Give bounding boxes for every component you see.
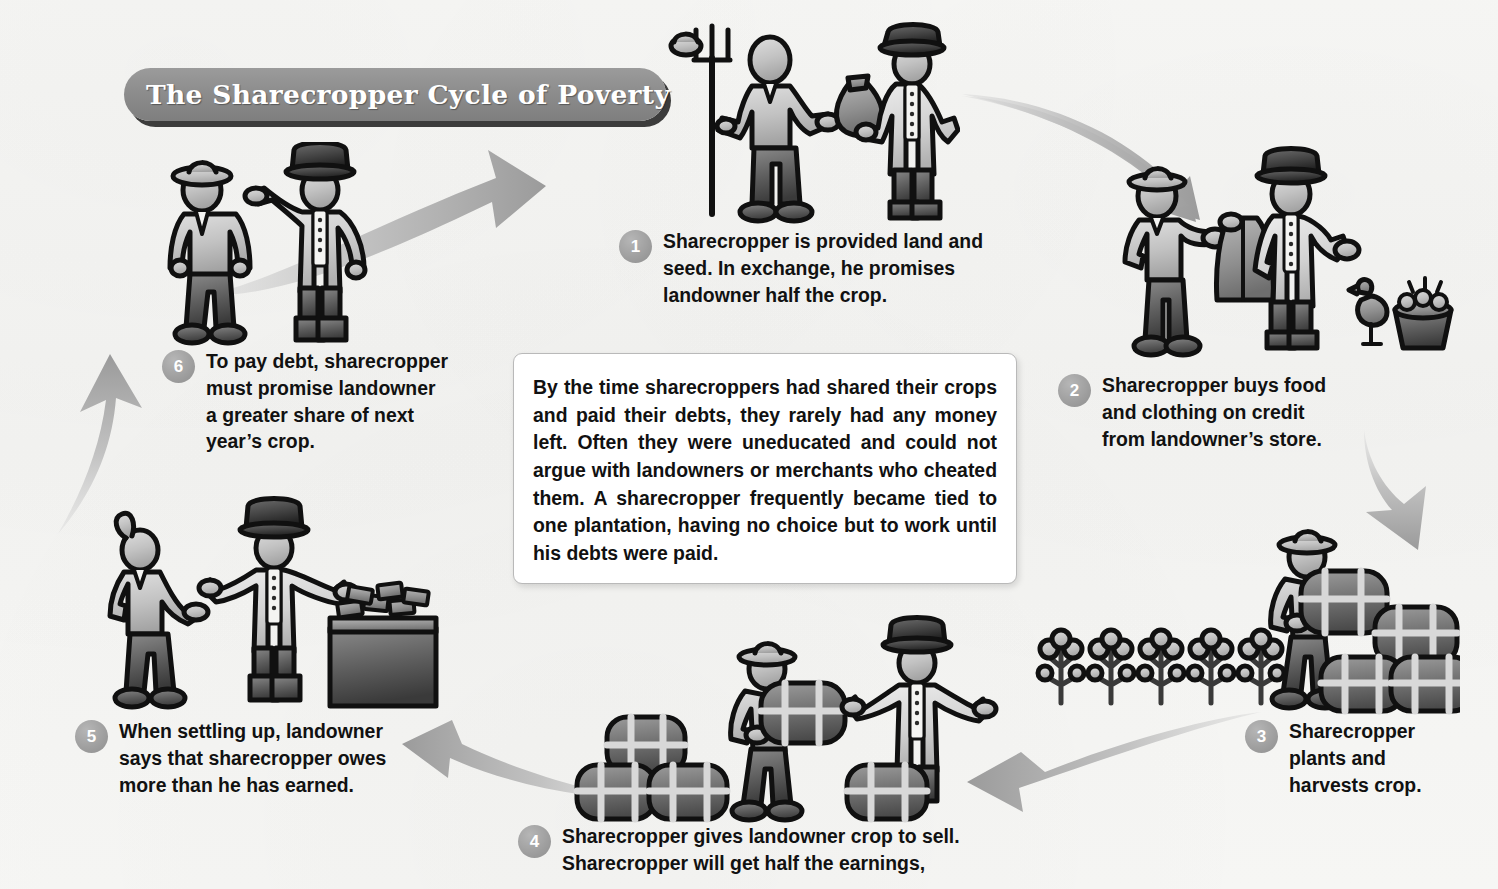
step-6-text: To pay debt, sharecropper must promise l…: [206, 348, 448, 455]
center-callout-box: By the time sharecroppers had shared the…: [513, 353, 1017, 584]
page-title: The Sharecropper Cycle of Poverty: [146, 79, 670, 110]
step-4-badge: 4: [518, 825, 551, 858]
sharecropper-cycle-infographic: The Sharecropper Cycle of Poverty By the…: [0, 0, 1498, 889]
step-1-badge: 1: [619, 230, 652, 263]
step-6: 6 To pay debt, sharecropper must promise…: [162, 348, 482, 455]
scene-landowner-demanding-share: [148, 142, 398, 347]
center-callout-text: By the time sharecroppers had shared the…: [533, 374, 997, 567]
step-3-badge: 3: [1245, 720, 1278, 753]
step-6-badge: 6: [162, 350, 195, 383]
step-2: 2 Sharecropper buys food and clothing on…: [1058, 372, 1388, 452]
step-3-text: Sharecropper plants and harvests crop.: [1289, 718, 1422, 798]
scene-settling-up-money-table: [92, 492, 442, 717]
step-5-text: When settling up, landowner says that sh…: [119, 718, 386, 798]
step-2-badge: 2: [1058, 374, 1091, 407]
scene-planting-harvesting-cotton: [1035, 515, 1460, 715]
step-2-text: Sharecropper buys food and clothing on c…: [1102, 372, 1326, 452]
step-1-text: Sharecropper is provided land and seed. …: [663, 228, 983, 308]
step-4: 4 Sharecropper gives landowner crop to s…: [518, 823, 1038, 877]
arrow-step3-to-step4: [965, 700, 1265, 825]
scene-sharecropper-receiving-seed: [660, 18, 960, 230]
scene-delivering-crop-to-landowner: [565, 605, 1005, 830]
title-banner: The Sharecropper Cycle of Poverty: [124, 68, 666, 121]
step-5-badge: 5: [75, 720, 108, 753]
step-5: 5 When settling up, landowner says that …: [75, 718, 435, 798]
step-3: 3 Sharecropper plants and harvests crop.: [1245, 718, 1485, 798]
scene-goods-on-credit: [1105, 140, 1457, 370]
step-1: 1 Sharecropper is provided land and seed…: [619, 228, 997, 308]
step-4-text: Sharecropper gives landowner crop to sel…: [562, 823, 960, 877]
